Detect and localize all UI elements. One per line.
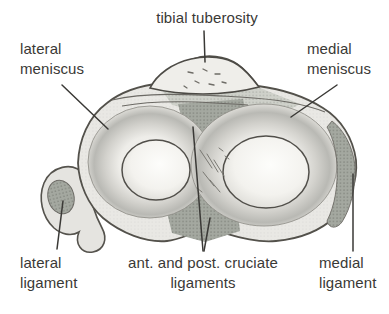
label-medial-meniscus-line2: meniscus [307, 59, 371, 79]
lateral-condyle-surface [122, 140, 190, 200]
label-cruciate-ligaments: ant. and post. cruciate ligaments [110, 253, 296, 293]
leader-tibial-tuberosity [204, 31, 205, 62]
label-cruciate-ligaments-line1: ant. and post. cruciate [110, 253, 296, 273]
label-lateral-ligament: lateral ligament [20, 253, 78, 293]
knee-tibial-plateau-figure: tibial tuberosity lateral meniscus media… [0, 0, 389, 314]
label-lateral-ligament-line2: ligament [20, 273, 78, 293]
label-tibial-tuberosity: tibial tuberosity [147, 8, 267, 28]
label-lateral-meniscus-line2: meniscus [20, 59, 84, 79]
label-medial-ligament-line1: medial [319, 253, 377, 273]
label-medial-meniscus-line1: medial [307, 39, 371, 59]
label-lateral-ligament-line1: lateral [20, 253, 78, 273]
label-medial-ligament-line2: ligament [319, 273, 377, 293]
label-medial-meniscus: medial meniscus [307, 39, 371, 79]
label-lateral-meniscus: lateral meniscus [20, 39, 84, 79]
medial-condyle-surface [223, 136, 309, 208]
label-cruciate-ligaments-line2: ligaments [110, 273, 296, 293]
label-medial-ligament: medial ligament [319, 253, 377, 293]
label-lateral-meniscus-line1: lateral [20, 39, 84, 59]
